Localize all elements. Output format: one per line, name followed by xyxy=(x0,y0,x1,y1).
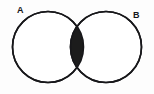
set-b-label: B xyxy=(133,11,140,20)
venn-diagram-figure: A B xyxy=(0,0,154,94)
set-a-label: A xyxy=(17,6,24,15)
